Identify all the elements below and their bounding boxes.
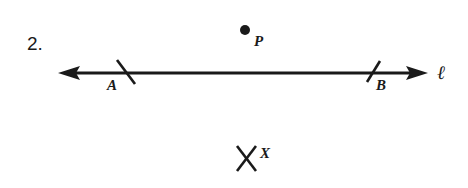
label-line-l: ℓ	[437, 62, 445, 84]
label-point-x: X	[260, 145, 270, 162]
label-point-p: P	[254, 33, 263, 50]
point-x-cross-icon	[237, 146, 256, 171]
point-p-dot	[240, 25, 250, 35]
geometry-figure	[0, 0, 468, 188]
problem-number: 2.	[27, 33, 43, 55]
label-point-b: B	[376, 77, 386, 94]
diagram-canvas: 2. A B P X ℓ	[0, 0, 468, 188]
label-point-a: A	[107, 77, 117, 94]
